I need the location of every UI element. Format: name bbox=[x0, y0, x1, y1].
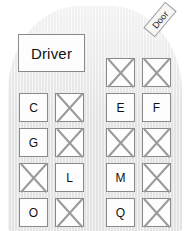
seat-right-r3-a[interactable]: X bbox=[106, 128, 135, 157]
seat-right-r1-b[interactable]: X bbox=[142, 58, 171, 87]
seat-right-r3-b[interactable]: X bbox=[142, 128, 171, 157]
seat-right-r1-a[interactable]: X bbox=[106, 58, 135, 87]
seat-left-r2-b[interactable]: X bbox=[55, 128, 84, 157]
seat-left-r3-a[interactable]: X bbox=[19, 163, 48, 192]
seat-right-r4-a[interactable]: M bbox=[106, 163, 135, 192]
seat-right-r4-b[interactable]: X bbox=[142, 163, 171, 192]
seat-right-r2-b[interactable]: F bbox=[142, 93, 171, 122]
seat-left-r1-b[interactable]: X bbox=[55, 93, 84, 122]
driver-box[interactable]: Driver bbox=[18, 34, 85, 72]
seat-left-r4-a[interactable]: O bbox=[19, 198, 48, 227]
seat-right-r5-a[interactable]: Q bbox=[106, 198, 135, 227]
seat-right-r2-a[interactable]: E bbox=[106, 93, 135, 122]
seat-left-r1-a[interactable]: C bbox=[19, 93, 48, 122]
seat-right-r5-b[interactable]: X bbox=[142, 198, 171, 227]
seat-left-r4-b[interactable]: X bbox=[55, 198, 84, 227]
seat-left-r2-a[interactable]: G bbox=[19, 128, 48, 157]
seat-left-r3-b[interactable]: L bbox=[55, 163, 84, 192]
seating-chart-diagram: Driver Door C X G X X L O X X X E F X X … bbox=[0, 0, 189, 231]
